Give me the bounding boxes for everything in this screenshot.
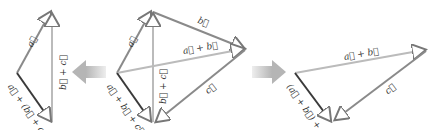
vector-c	[157, 50, 245, 121]
arrow-right-icon	[252, 60, 286, 84]
vector-c	[336, 51, 426, 119]
vector-a-plus-b	[117, 49, 243, 73]
label-b-plus-c: b⃗ + c⃗	[58, 55, 68, 90]
label-b-plus-c: b⃗ + c⃗	[158, 69, 168, 104]
center-panel	[117, 12, 245, 122]
right-panel	[295, 50, 426, 120]
arrow-left-icon	[72, 60, 106, 84]
